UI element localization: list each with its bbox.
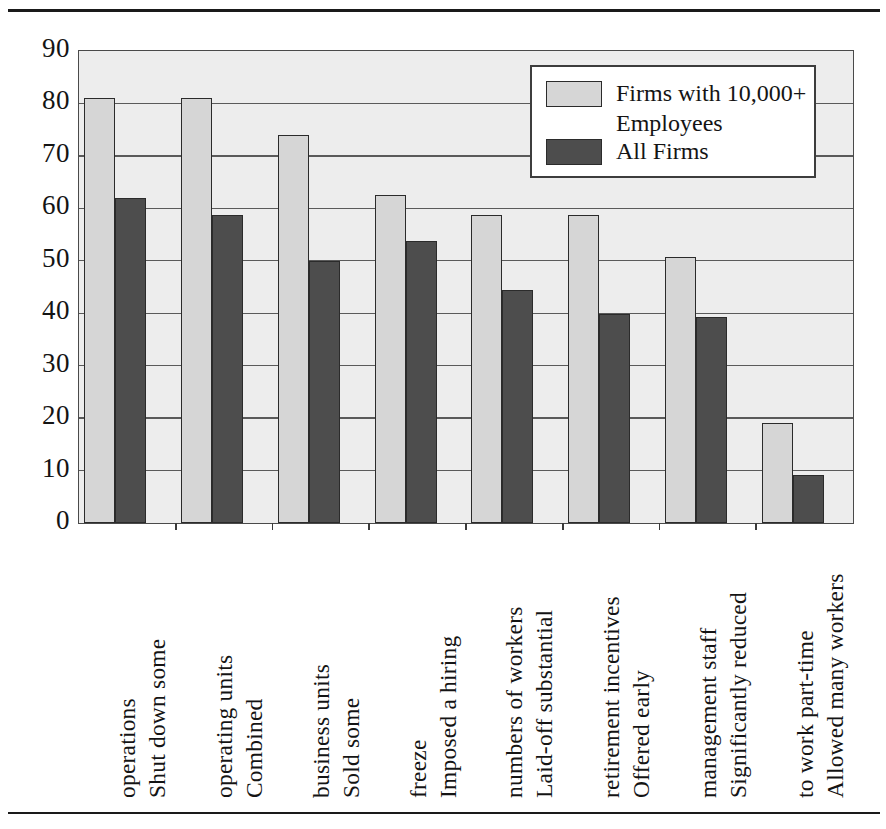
- bar-firms-10000-plus-3: [375, 195, 406, 523]
- category-label-4: Laid-off substantialnumbers of workers: [499, 528, 559, 798]
- figure-container: 0102030405060708090 Shut down someoperat…: [0, 0, 886, 829]
- y-tick-label-10: 10: [0, 455, 70, 482]
- bar-all-firms-2: [309, 261, 340, 523]
- bottom-rule: [8, 812, 880, 814]
- y-tick-label-90: 90: [0, 35, 70, 62]
- x-axis-labels: Shut down someoperationsCombinedoperatin…: [78, 522, 852, 812]
- category-label-line: Allowed many workers: [820, 573, 850, 798]
- y-tick-label-0: 0: [0, 507, 70, 534]
- chart-legend: Firms with 10,000+ Employees All Firms: [530, 65, 816, 178]
- legend-item-firms-10000-plus: Firms with 10,000+ Employees: [546, 78, 806, 138]
- y-tick-label-20: 20: [0, 402, 70, 429]
- y-tick-label-80: 80: [0, 87, 70, 114]
- bar-firms-10000-plus-6: [665, 257, 696, 523]
- y-tick-label-70: 70: [0, 140, 70, 167]
- y-tick-label-40: 40: [0, 297, 70, 324]
- category-label-line: numbers of workers: [499, 606, 529, 798]
- category-label-line: Shut down some: [142, 639, 172, 798]
- y-tick-label-50: 50: [0, 245, 70, 272]
- legend-label-firms-10000-plus: Firms with 10,000+ Employees: [616, 78, 806, 138]
- category-label-5: Offered earlyretirement incentives: [596, 528, 656, 798]
- bar-firms-10000-plus-4: [471, 215, 502, 523]
- y-axis: 0102030405060708090: [0, 0, 70, 829]
- category-label-line: Offered early: [626, 670, 656, 798]
- category-label-2: Sold somebusiness units: [306, 528, 366, 798]
- bar-all-firms-6: [696, 317, 727, 523]
- bar-firms-10000-plus-7: [762, 423, 793, 523]
- bar-firms-10000-plus-2: [278, 135, 309, 523]
- bar-all-firms-0: [115, 198, 146, 523]
- bar-all-firms-7: [793, 475, 824, 523]
- category-label-line: Combined: [239, 698, 269, 798]
- category-label-line: Imposed a hiring: [433, 636, 463, 798]
- y-tick-label-30: 30: [0, 350, 70, 377]
- top-rule: [8, 9, 880, 12]
- y-tick-label-60: 60: [0, 192, 70, 219]
- legend-swatch-light: [546, 81, 602, 107]
- bar-all-firms-5: [599, 314, 630, 523]
- category-label-6: Significantly reducedmanagement staff: [693, 528, 753, 798]
- bar-all-firms-3: [406, 241, 437, 523]
- legend-item-all-firms: All Firms: [546, 136, 709, 166]
- category-label-line: retirement incentives: [596, 596, 626, 798]
- category-label-3: Imposed a hiringfreeze: [403, 528, 463, 798]
- category-label-line: Laid-off substantial: [529, 610, 559, 798]
- legend-label-all-firms: All Firms: [616, 136, 709, 166]
- category-label-line: to work part-time: [790, 630, 820, 798]
- category-label-line: business units: [306, 664, 336, 798]
- category-label-7: Allowed many workersto work part-time: [790, 528, 850, 798]
- bar-all-firms-1: [212, 215, 243, 523]
- category-label-line: Significantly reduced: [723, 592, 753, 798]
- category-label-0: Shut down someoperations: [112, 528, 172, 798]
- category-label-1: Combinedoperating units: [209, 528, 269, 798]
- category-label-line: management staff: [693, 628, 723, 798]
- category-label-line: operating units: [209, 655, 239, 798]
- category-label-line: freeze: [403, 739, 433, 798]
- bar-firms-10000-plus-5: [568, 215, 599, 523]
- legend-swatch-dark: [546, 139, 602, 165]
- category-label-line: operations: [112, 698, 142, 798]
- bar-firms-10000-plus-0: [84, 98, 115, 523]
- bar-firms-10000-plus-1: [181, 98, 212, 523]
- category-label-line: Sold some: [336, 698, 366, 798]
- bar-all-firms-4: [502, 290, 533, 523]
